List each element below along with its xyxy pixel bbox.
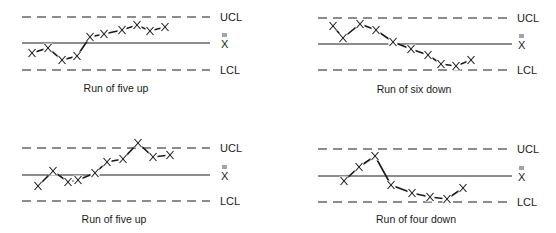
- x-marker-icon: [64, 178, 73, 187]
- chart-caption: Run of four down: [376, 213, 456, 225]
- x-marker-icon: [408, 189, 417, 198]
- x-marker-icon: [355, 163, 364, 172]
- x-marker-icon: [467, 56, 476, 65]
- x-marker-icon: [34, 182, 43, 191]
- control-chart-top-right: UCLXLCLRun of six down: [318, 12, 539, 95]
- lcl-label: LCL: [517, 196, 537, 208]
- center-label: X: [518, 171, 526, 183]
- x-marker-icon: [149, 153, 158, 162]
- control-chart-bottom-right: UCLXLCLRun of four down: [318, 143, 539, 225]
- x-marker-icon: [426, 193, 435, 202]
- x-marker-icon: [356, 20, 365, 29]
- x-marker-icon: [133, 21, 142, 30]
- x-marker-icon: [329, 22, 338, 31]
- data-line: [344, 156, 463, 199]
- x-marker-icon: [387, 181, 396, 190]
- data-line: [333, 24, 471, 66]
- x-marker-icon: [452, 62, 461, 71]
- control-chart-top-left: UCLXLCLRun of five up: [22, 11, 242, 94]
- chart-caption: Run of six down: [377, 83, 452, 95]
- lcl-label: LCL: [220, 195, 240, 207]
- chart-caption: Run of five up: [82, 213, 147, 225]
- x-marker-icon: [58, 56, 67, 65]
- x-marker-icon: [100, 30, 109, 39]
- lcl-label: LCL: [220, 64, 240, 76]
- center-label: X: [518, 39, 526, 51]
- ucl-label: UCL: [220, 142, 242, 154]
- x-marker-icon: [49, 167, 58, 176]
- center-label: X: [221, 38, 229, 50]
- x-marker-icon: [161, 23, 170, 32]
- x-marker-icon: [437, 60, 446, 69]
- x-marker-icon: [389, 38, 398, 47]
- ucl-label: UCL: [517, 12, 539, 24]
- x-marker-icon: [44, 44, 53, 53]
- x-marker-icon: [339, 34, 348, 43]
- chart-caption: Run of five up: [84, 82, 149, 94]
- x-marker-icon: [118, 26, 127, 35]
- x-marker-icon: [134, 139, 143, 148]
- x-marker-icon: [372, 26, 381, 35]
- x-marker-icon: [443, 195, 452, 204]
- lcl-label: LCL: [517, 64, 537, 76]
- control-charts-figure: UCLXLCLRun of five upUCLXLCLRun of six d…: [0, 0, 556, 233]
- x-marker-icon: [340, 177, 349, 186]
- x-marker-icon: [73, 52, 82, 61]
- x-marker-icon: [86, 33, 95, 42]
- x-marker-icon: [459, 184, 468, 193]
- ucl-label: UCL: [517, 143, 539, 155]
- x-marker-icon: [166, 151, 175, 160]
- x-marker-icon: [119, 155, 128, 164]
- x-marker-icon: [407, 45, 416, 54]
- x-marker-icon: [371, 152, 380, 161]
- x-marker-icon: [103, 158, 112, 167]
- center-label: X: [221, 170, 229, 182]
- x-marker-icon: [74, 176, 83, 185]
- x-marker-icon: [91, 169, 100, 178]
- x-marker-icon: [146, 27, 155, 36]
- control-chart-bottom-left: UCLXLCLRun of five up: [22, 139, 242, 226]
- ucl-label: UCL: [220, 11, 242, 23]
- x-marker-icon: [28, 49, 37, 58]
- x-marker-icon: [424, 51, 433, 60]
